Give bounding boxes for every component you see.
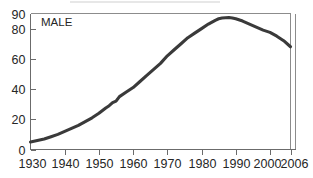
series-label-male: MALE — [41, 16, 73, 28]
y-axis-ticks — [31, 30, 36, 151]
x-axis-tick-labels: 193019401950196019701980199020002006 — [19, 157, 309, 171]
line-chart: 02040608090 1930194019501960197019801990… — [0, 0, 313, 178]
x-tick-label-1980: 1980 — [189, 157, 217, 171]
top-edge-artifact — [70, 1, 220, 3]
y-tick-label-90: 90 — [12, 8, 26, 22]
y-tick-label-60: 60 — [12, 53, 26, 67]
x-tick-label-1970: 1970 — [154, 157, 182, 171]
x-axis-ticks — [66, 150, 292, 155]
y-tick-label-20: 20 — [12, 113, 26, 127]
x-tick-label-1930: 1930 — [19, 157, 47, 171]
chart-container: 02040608090 1930194019501960197019801990… — [0, 0, 313, 178]
x-tick-label-1950: 1950 — [86, 157, 114, 171]
x-tick-label-1990: 1990 — [223, 157, 251, 171]
x-tick-label-2006: 2006 — [281, 157, 309, 171]
y-tick-label-80: 80 — [12, 23, 26, 37]
x-tick-label-1960: 1960 — [120, 157, 148, 171]
x-tick-label-2000: 2000 — [254, 157, 282, 171]
y-axis-tick-labels: 02040608090 — [12, 8, 26, 158]
series-line-male — [31, 18, 291, 142]
y-tick-label-40: 40 — [12, 83, 26, 97]
x-tick-label-1940: 1940 — [52, 157, 80, 171]
